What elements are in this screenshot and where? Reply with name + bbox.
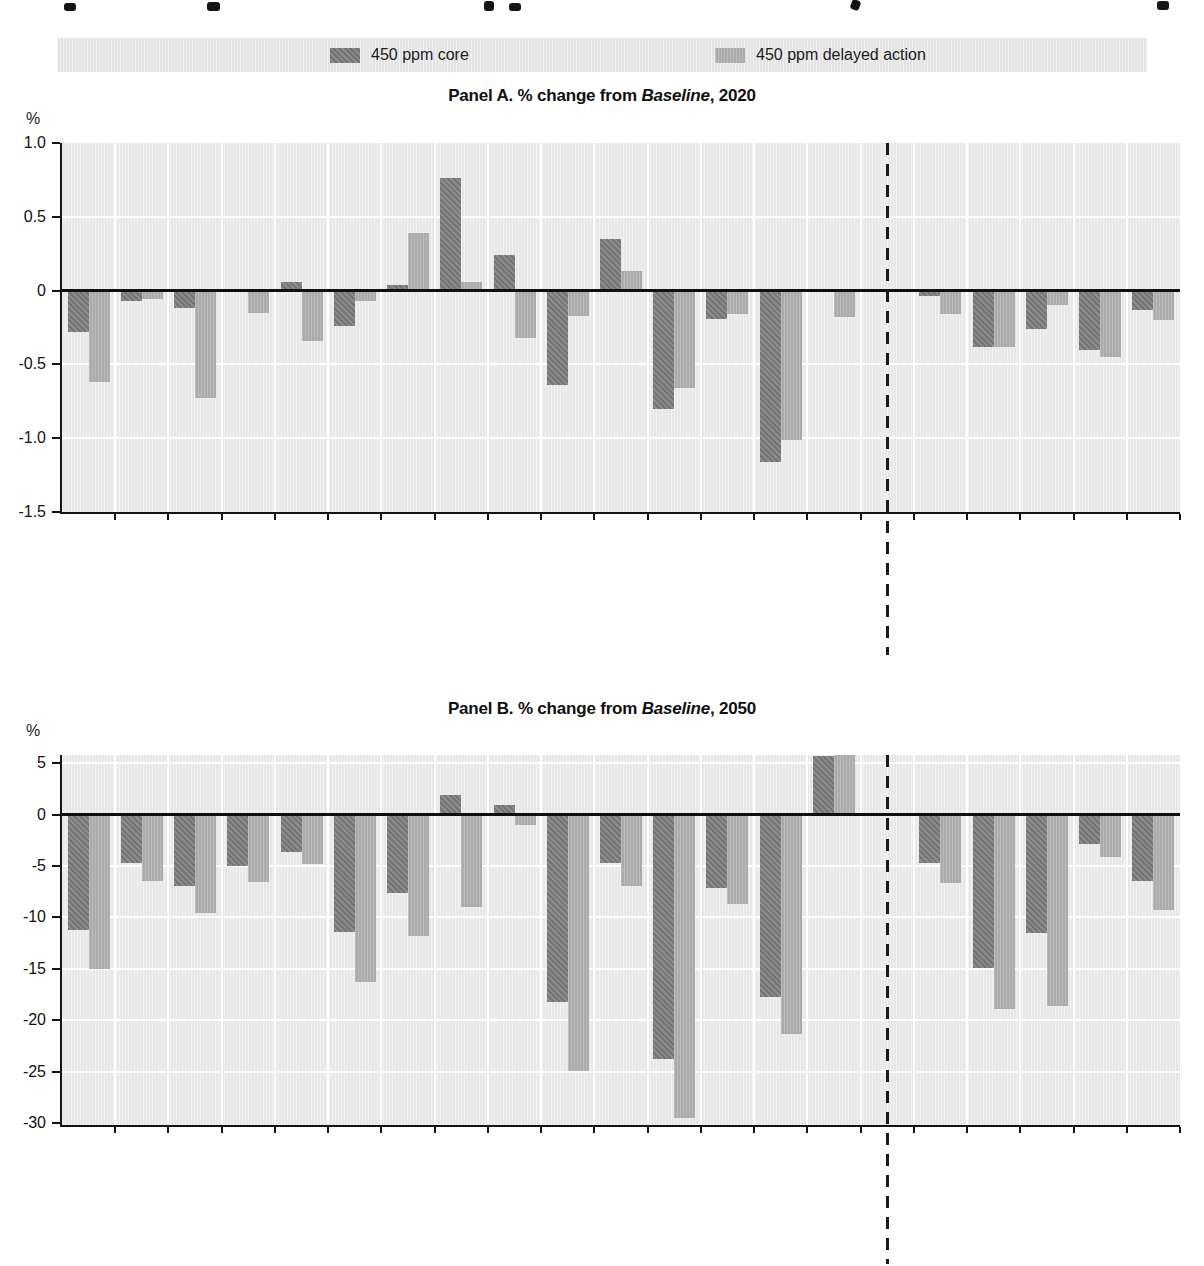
vertical-gridline (114, 755, 116, 1125)
panel-b-title: Panel B. % change from Baseline, 2050 (0, 699, 1204, 719)
vertical-gridline (913, 143, 915, 512)
bar-delayed (302, 291, 323, 341)
x-axis-tick (1019, 514, 1021, 520)
y-axis-line (60, 755, 62, 1127)
bar-delayed (195, 291, 216, 399)
bar-core (387, 815, 408, 893)
y-tick-label: -1.5 (2, 503, 46, 521)
vertical-gridline (221, 755, 223, 1125)
x-axis-tick (593, 1127, 595, 1133)
horizontal-gridline (62, 363, 1180, 365)
bar-core (1132, 291, 1153, 310)
vertical-gridline (647, 755, 649, 1125)
y-tick-label: -25 (2, 1063, 46, 1081)
bar-delayed (302, 815, 323, 864)
vertical-gridline (753, 143, 755, 512)
panel-a-title-prefix: Panel A. % change from (448, 86, 641, 105)
bar-delayed (248, 815, 269, 883)
y-tick-label: -20 (2, 1011, 46, 1029)
x-axis-tick (966, 1127, 968, 1133)
bar-delayed (994, 815, 1015, 1009)
vertical-gridline (1019, 755, 1021, 1125)
y-tick-label: 5 (2, 754, 46, 772)
x-axis-tick (753, 514, 755, 520)
bar-delayed (621, 271, 642, 290)
title-glyph-fragment (484, 1, 494, 11)
vertical-gridline (434, 755, 436, 1125)
horizontal-gridline (62, 1071, 1180, 1073)
bar-delayed (461, 815, 482, 908)
x-axis-tick (966, 514, 968, 520)
x-axis-tick (700, 1127, 702, 1133)
vertical-gridline (593, 755, 595, 1125)
bar-core (919, 815, 940, 863)
vertical-gridline (167, 755, 169, 1125)
panel-b-percent-label: % (26, 722, 40, 740)
bar-core (121, 291, 142, 301)
bar-delayed (355, 291, 376, 301)
bar-delayed (834, 755, 855, 815)
vertical-gridline (753, 755, 755, 1125)
vertical-gridline (913, 755, 915, 1125)
bar-core (706, 291, 727, 319)
x-axis-tick (274, 1127, 276, 1133)
y-axis-tick (52, 363, 60, 365)
vertical-gridline (806, 755, 808, 1125)
bar-core (227, 815, 248, 866)
bar-core (334, 291, 355, 326)
legend-item-delayed: 450 ppm delayed action (715, 38, 926, 72)
bar-delayed (1153, 815, 1174, 911)
bar-delayed (674, 815, 695, 1118)
vertical-gridline (540, 143, 542, 512)
bar-core (973, 291, 994, 347)
x-axis-tick (434, 514, 436, 520)
bar-delayed (727, 815, 748, 904)
x-axis-tick (540, 1127, 542, 1133)
x-axis-tick (221, 514, 223, 520)
panel-a-title: Panel A. % change from Baseline, 2020 (0, 86, 1204, 106)
y-tick-label: 0.5 (2, 208, 46, 226)
bar-core (973, 815, 994, 968)
y-axis-tick (52, 865, 60, 867)
bar-delayed (89, 815, 110, 969)
vertical-gridline (114, 143, 116, 512)
vertical-gridline (380, 143, 382, 512)
y-axis-tick (52, 814, 60, 816)
bar-core (600, 239, 621, 291)
bar-core (1132, 815, 1153, 882)
vertical-gridline (1126, 143, 1128, 512)
bar-core (813, 756, 834, 815)
vertical-gridline (274, 755, 276, 1125)
x-axis-tick (274, 514, 276, 520)
horizontal-gridline (62, 1019, 1180, 1021)
bar-core (334, 815, 355, 932)
legend-label-core: 450 ppm core (371, 46, 469, 64)
x-axis-tick (913, 514, 915, 520)
plot-area-panel-A (62, 143, 1180, 512)
panel-b-title-prefix: Panel B. % change from (448, 699, 642, 718)
bar-core (653, 815, 674, 1060)
bar-core (440, 795, 461, 815)
vertical-gridline (1019, 143, 1021, 512)
bar-delayed (568, 291, 589, 316)
vertical-gridline (434, 143, 436, 512)
y-axis-tick (52, 216, 60, 218)
bar-core (281, 815, 302, 852)
bar-core (121, 815, 142, 863)
bar-delayed (408, 815, 429, 936)
y-axis-tick (52, 762, 60, 764)
bar-core (760, 291, 781, 462)
vertical-gridline (647, 143, 649, 512)
bar-delayed (568, 815, 589, 1071)
bar-delayed (1100, 815, 1121, 857)
x-axis-tick (167, 514, 169, 520)
bar-delayed (940, 291, 961, 315)
bar-core (547, 291, 568, 385)
bar-delayed (1153, 291, 1174, 321)
panel-a-title-suffix: , 2020 (710, 86, 756, 105)
y-axis-tick (52, 511, 60, 513)
x-axis-tick (1126, 1127, 1128, 1133)
bar-core (547, 815, 568, 1002)
y-axis-tick (52, 1122, 60, 1124)
x-axis-tick (806, 1127, 808, 1133)
